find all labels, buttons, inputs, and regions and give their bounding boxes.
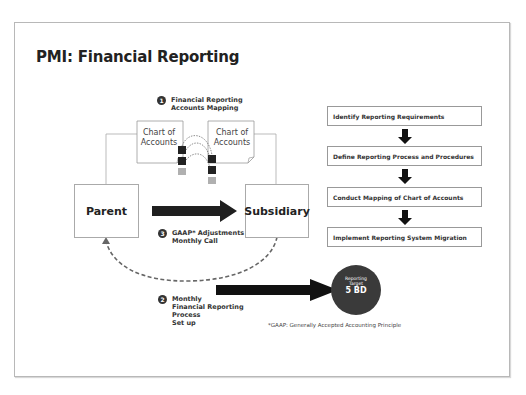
chart-of-accounts-right: Chart of Accounts [210, 128, 254, 148]
connector-right [254, 134, 276, 184]
step-1-badge: 1 [157, 96, 166, 105]
account-square [178, 157, 186, 165]
account-square-gray [178, 168, 186, 175]
process-step-define: Define Reporting Process and Procedures [327, 146, 482, 166]
gaap-footnote: *GAAP: Generally Accepted Accounting Pri… [268, 322, 401, 328]
connector-left [106, 134, 137, 184]
subsidiary-box: Subsidiary [245, 184, 309, 238]
gaap-arrow [152, 200, 237, 222]
account-square [208, 166, 216, 174]
step-3-badge: 3 [158, 229, 167, 238]
step-3-label: GAAP* Adjustments Monthly Call [172, 229, 244, 245]
step-2-label: Monthly Financial Reporting Process Set … [172, 295, 244, 327]
step-1-label: Financial Reporting Accounts Mapping [171, 96, 243, 112]
account-square-gray [208, 177, 216, 184]
process-step-implement: Implement Reporting System Migration [327, 227, 482, 247]
arc-arrowhead [102, 237, 110, 244]
chart-of-accounts-left: Chart of Accounts [137, 128, 181, 148]
process-step-mapping: Conduct Mapping of Chart of Accounts [327, 187, 482, 207]
parent-box: Parent [74, 184, 139, 238]
reporting-target-text: Reporting Target 5 BD [331, 276, 381, 296]
process-step-identify: Identify Reporting Requirements [327, 106, 482, 126]
process-flow-arrows [398, 129, 412, 225]
step-2-badge: 2 [158, 295, 167, 304]
